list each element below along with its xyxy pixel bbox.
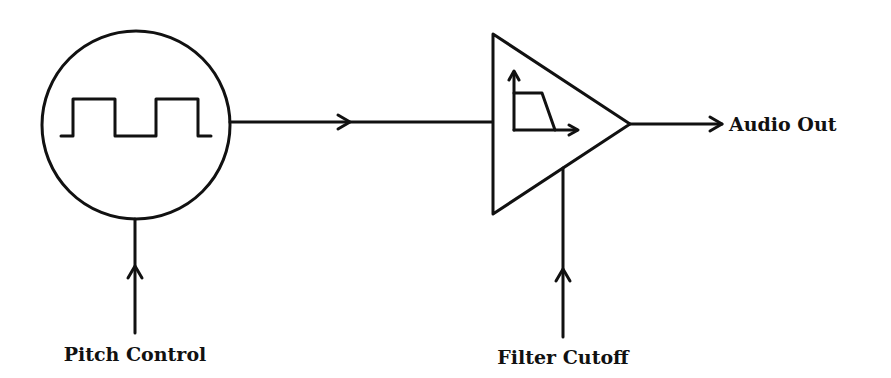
oscillator-circle	[42, 31, 230, 219]
diagram-svg: Pitch Control Filter Cutoff Audio Out	[0, 0, 891, 378]
diagram-canvas: Pitch Control Filter Cutoff Audio Out	[0, 0, 891, 378]
audio-out-label: Audio Out	[728, 113, 837, 135]
oscillator-node	[42, 31, 230, 219]
audio-out-edge	[630, 117, 722, 131]
pitch-control-edge	[128, 219, 142, 333]
oscillator-to-filter-edge	[230, 115, 493, 129]
filter-cutoff-label: Filter Cutoff	[497, 346, 630, 368]
pitch-control-label: Pitch Control	[64, 343, 207, 365]
filter-cutoff-edge	[556, 168, 570, 337]
